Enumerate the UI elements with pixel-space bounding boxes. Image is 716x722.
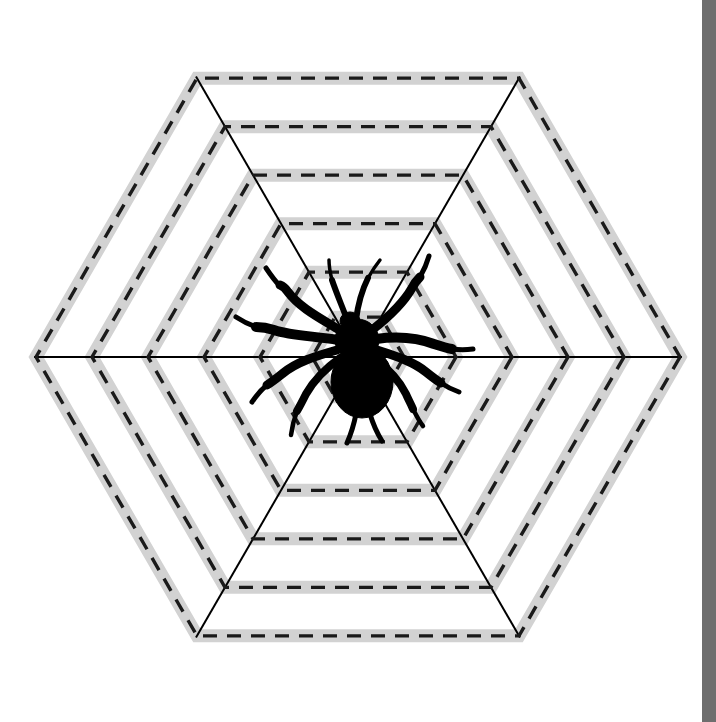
spider-web-page xyxy=(0,0,716,722)
spider-web-figure xyxy=(0,0,702,722)
vertical-scrollbar-track[interactable] xyxy=(702,0,716,722)
vertical-scrollbar-thumb[interactable] xyxy=(702,0,716,722)
diagram-canvas xyxy=(0,0,702,722)
spider-leg-right-2-tip xyxy=(452,349,473,350)
